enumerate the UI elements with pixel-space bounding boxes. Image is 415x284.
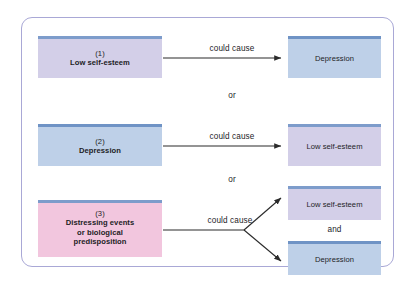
node-target-label-1: Depression [288,54,381,63]
node-number-3: (3) [38,209,162,218]
node-target-label-2: Low self-esteem [288,142,381,151]
node-label-2: Depression [38,146,162,155]
target-conjunction-and: and [288,225,381,234]
arrow-row-3-branch-up [244,198,281,230]
connector-label-1: could cause [172,44,292,53]
node-source-1[interactable]: (1) Low self-esteem [38,36,162,78]
diagram-frame: (1) Low self-esteem could cause Depressi… [21,17,394,267]
connector-label-2: could cause [172,132,292,141]
connector-label-3: could cause [170,216,290,225]
node-number-1: (1) [38,49,162,58]
node-accent-bar [38,200,162,203]
node-label-3-line1: Distressing events [38,218,162,227]
node-label-3-line3: predisposition [38,237,162,246]
node-target-label-3a: Low self-esteem [288,200,381,209]
arrow-row-3-branch-down [244,230,281,261]
node-accent-bar [38,124,162,127]
node-accent-bar [288,241,381,244]
node-target-2[interactable]: Low self-esteem [288,124,381,166]
separator-or-1: or [172,91,292,100]
node-accent-bar [38,36,162,39]
node-target-3a[interactable]: Low self-esteem [288,186,381,220]
node-label-1: Low self-esteem [38,58,162,67]
node-accent-bar [288,36,381,39]
node-target-1[interactable]: Depression [288,36,381,78]
separator-or-2: or [172,175,292,184]
node-target-3b[interactable]: Depression [288,241,381,275]
node-source-2[interactable]: (2) Depression [38,124,162,166]
node-accent-bar [288,186,381,189]
node-accent-bar [288,124,381,127]
node-target-label-3b: Depression [288,255,381,264]
node-label-3-line2: or biological [38,228,162,237]
node-number-2: (2) [38,137,162,146]
node-source-3[interactable]: (3) Distressing events or biological pre… [38,200,162,257]
